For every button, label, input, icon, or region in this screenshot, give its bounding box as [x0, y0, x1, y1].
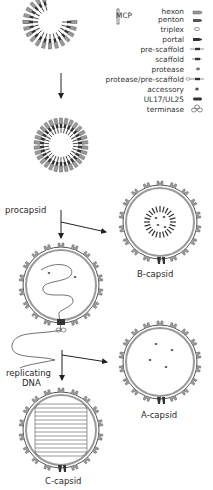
arrow-to-b-capsid — [61, 222, 106, 232]
b-capsid — [119, 181, 201, 264]
mcp-bracket — [117, 9, 119, 24]
partial-procapsid — [23, 0, 77, 49]
procapsid — [34, 118, 88, 172]
hexon-icon — [193, 11, 202, 14]
portal-icon — [193, 38, 202, 41]
capsid-assembly-diagram — [0, 0, 213, 490]
pre-scaffold-icon — [190, 48, 204, 50]
legend-icons — [117, 9, 204, 112]
scaffold-icon — [192, 58, 202, 60]
a-capsid — [119, 321, 201, 404]
penton-icon — [193, 19, 202, 22]
protease-icon — [196, 68, 200, 71]
arrow-to-a-capsid — [62, 355, 107, 362]
packaged-dna-coils — [35, 404, 87, 456]
accessory-icon — [195, 88, 199, 91]
protease-pre-scaffold-icon — [186, 78, 204, 81]
packaging-capsid — [19, 243, 103, 332]
ul17-ul25-icon — [193, 98, 202, 101]
terminase-icon — [192, 105, 203, 112]
triplex-icon — [195, 27, 200, 30]
c-capsid — [19, 388, 103, 472]
replicating-dna-strand — [12, 330, 61, 368]
